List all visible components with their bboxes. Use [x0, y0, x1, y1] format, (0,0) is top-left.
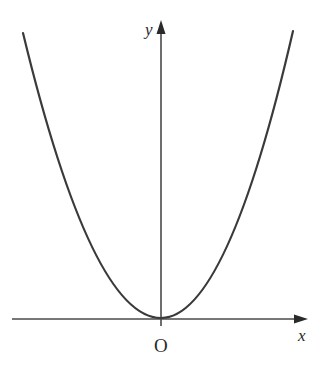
parabola-curve	[23, 31, 293, 318]
origin-label: O	[154, 335, 168, 356]
y-axis-label: y	[143, 20, 153, 39]
x-axis-arrow-icon	[294, 315, 308, 324]
parabola-diagram: y x O	[0, 0, 326, 375]
x-axis-label: x	[297, 326, 306, 345]
y-axis-arrow-icon	[157, 20, 166, 34]
